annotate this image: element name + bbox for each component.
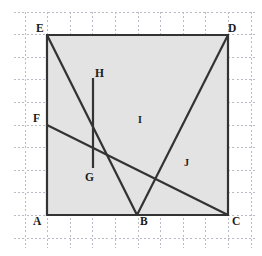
vertex-label-f: F (33, 113, 40, 125)
square-fill (47, 35, 228, 215)
vertex-label-c: C (232, 216, 240, 228)
vertex-label-g: G (85, 172, 94, 184)
vertex-label-d: D (228, 23, 236, 35)
vertex-label-b: B (140, 216, 148, 228)
vertex-label-j: J (184, 158, 189, 168)
vertex-label-h: H (95, 68, 104, 80)
vertex-label-e: E (36, 23, 44, 35)
vertex-label-i: I (138, 115, 142, 125)
vertex-label-a: A (33, 216, 41, 228)
geometry-figure: ABCDEFGHIJ (0, 0, 262, 256)
